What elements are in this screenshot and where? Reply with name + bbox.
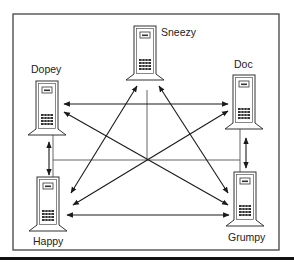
server-tower-icon — [29, 177, 67, 231]
node-grumpy[interactable]: Grumpy — [226, 172, 266, 243]
arrow-sneezy-grumpy — [159, 86, 228, 193]
server-tower-icon — [226, 172, 264, 226]
server-tower-icon — [28, 81, 66, 135]
node-dopey[interactable]: Dopey — [28, 63, 66, 135]
network-bus — [53, 90, 240, 178]
node-doc[interactable]: Doc — [225, 58, 263, 129]
node-label: Sneezy — [161, 26, 197, 38]
node-label: Doc — [234, 58, 253, 70]
node-happy[interactable]: Happy — [29, 177, 67, 247]
connection-arrows — [49, 86, 246, 215]
node-label: Dopey — [31, 63, 62, 75]
server-tower-icon — [225, 75, 263, 129]
node-sneezy[interactable]: Sneezy — [126, 26, 197, 80]
bottom-rule — [0, 257, 294, 260]
network-diagram: Sneezy Dopey Doc Happy Grumpy — [0, 0, 294, 272]
arrow-doc-happy — [73, 111, 228, 205]
server-tower-icon — [126, 26, 164, 80]
node-label: Happy — [33, 235, 64, 247]
node-label: Grumpy — [228, 231, 266, 243]
arrow-sneezy-happy — [71, 86, 137, 193]
